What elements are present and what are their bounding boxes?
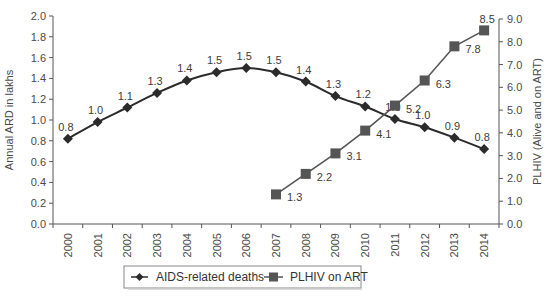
x-tick-label: 2000	[62, 233, 74, 257]
aids-deaths-point	[182, 75, 192, 85]
right-y-tick-label: 0.0	[507, 218, 522, 230]
dual-axis-line-chart: 0.00.20.40.60.81.01.21.41.61.82.0Annual …	[0, 0, 549, 299]
x-tick-label: 2003	[151, 233, 163, 257]
aids-deaths-point	[271, 67, 281, 77]
left-y-tick-label: 0.2	[31, 197, 46, 209]
x-tick-label: 2007	[270, 233, 282, 257]
aids-deaths-data-label: 0.9	[445, 120, 460, 132]
aids-deaths-point	[301, 77, 311, 87]
right-y-tick-label: 4.0	[507, 127, 522, 139]
left-y-tick-label: 0.0	[31, 218, 46, 230]
aids-deaths-point	[330, 91, 340, 101]
right-y-tick-label: 1.0	[507, 195, 522, 207]
x-tick-label: 2001	[92, 233, 104, 257]
plhiv-art-point	[301, 169, 311, 179]
left-y-tick-label: 1.8	[31, 31, 46, 43]
aids-deaths-point	[93, 117, 103, 127]
x-tick-label: 2005	[211, 233, 223, 257]
plhiv-art-point	[390, 101, 400, 111]
x-tick-label: 2012	[419, 233, 431, 257]
aids-deaths-data-label: 1.5	[207, 54, 222, 66]
aids-deaths-data-label: 1.3	[326, 78, 341, 90]
left-y-tick-label: 1.2	[31, 93, 46, 105]
square-marker-icon	[269, 273, 278, 282]
aids-deaths-data-label: 1.0	[88, 104, 103, 116]
aids-deaths-data-label: 0.8	[474, 131, 489, 143]
series-layer: 0.81.01.11.31.41.51.51.51.41.31.21.01.00…	[58, 13, 495, 203]
left-y-tick-label: 0.8	[31, 135, 46, 147]
x-tick-label: 2008	[300, 233, 312, 257]
right-y-tick-label: 7.0	[507, 59, 522, 71]
aids-deaths-point	[360, 101, 370, 111]
plhiv-art-data-label: 7.8	[465, 43, 480, 55]
plhiv-art-data-label: 3.1	[346, 150, 361, 162]
right-y-axis-title: PLHIV (Alive and on ART)	[531, 58, 543, 185]
left-y-axis-title: Annual ARD in lakhs	[3, 69, 15, 170]
plhiv-art-point	[449, 41, 459, 51]
plhiv-art-point	[360, 126, 370, 136]
left-y-tick-label: 0.6	[31, 156, 46, 168]
aids-deaths-data-label: 1.2	[356, 88, 371, 100]
x-tick-label: 2014	[478, 233, 490, 257]
left-y-tick-label: 0.4	[31, 176, 46, 188]
cut-off-caption	[0, 294, 200, 299]
aids-deaths-point	[122, 103, 132, 113]
axes: 0.00.20.40.60.81.01.21.41.61.82.0Annual …	[3, 10, 543, 257]
plhiv-art-point	[479, 25, 489, 35]
aids-deaths-point	[479, 144, 489, 154]
right-y-tick-label: 3.0	[507, 150, 522, 162]
x-tick-label: 2011	[389, 233, 401, 257]
aids-deaths-data-label: 1.1	[118, 90, 133, 102]
plhiv-art-point	[271, 189, 281, 199]
legend-label-aids: AIDS-related deaths	[156, 270, 264, 284]
x-tick-label: 2006	[240, 233, 252, 257]
left-y-tick-label: 1.4	[31, 72, 46, 84]
right-y-tick-label: 9.0	[507, 13, 522, 25]
aids-deaths-point	[241, 63, 251, 73]
plhiv-art-data-label: 1.3	[287, 191, 302, 203]
right-y-tick-label: 5.0	[507, 104, 522, 116]
plhiv-art-data-label: 4.1	[376, 128, 391, 140]
plhiv-art-data-label: 8.5	[479, 13, 494, 25]
left-y-tick-label: 2.0	[31, 10, 46, 22]
right-y-tick-label: 6.0	[507, 81, 522, 93]
aids-deaths-data-label: 1.3	[147, 75, 162, 87]
x-tick-label: 2010	[359, 233, 371, 257]
aids-deaths-data-label: 1.4	[296, 64, 311, 76]
aids-deaths-data-label: 0.8	[58, 121, 73, 133]
left-y-tick-label: 1.0	[31, 114, 46, 126]
aids-deaths-data-label: 1.4	[177, 62, 192, 74]
plhiv-art-data-label: 6.3	[436, 78, 451, 90]
aids-deaths-data-label: 1.5	[237, 50, 252, 62]
right-y-tick-label: 8.0	[507, 36, 522, 48]
legend: AIDS-related deaths PLHIV on ART	[124, 266, 368, 289]
plhiv-art-data-label: 2.2	[317, 171, 332, 183]
aids-deaths-point	[152, 88, 162, 98]
aids-deaths-point	[212, 67, 222, 77]
legend-label-plhiv: PLHIV on ART	[290, 270, 368, 284]
aids-deaths-point	[420, 122, 430, 132]
x-tick-label: 2009	[329, 233, 341, 257]
left-y-tick-label: 1.6	[31, 52, 46, 64]
aids-deaths-point	[390, 114, 400, 124]
x-tick-label: 2013	[448, 233, 460, 257]
aids-deaths-data-label: 1.5	[266, 54, 281, 66]
plhiv-art-point	[420, 76, 430, 86]
right-y-tick-label: 2.0	[507, 172, 522, 184]
plhiv-art-point	[330, 148, 340, 158]
aids-deaths-point	[63, 134, 73, 144]
aids-deaths-point	[449, 133, 459, 143]
x-tick-label: 2002	[121, 233, 133, 257]
x-tick-label: 2004	[181, 233, 193, 257]
plhiv-art-data-label: 5.2	[406, 103, 421, 115]
